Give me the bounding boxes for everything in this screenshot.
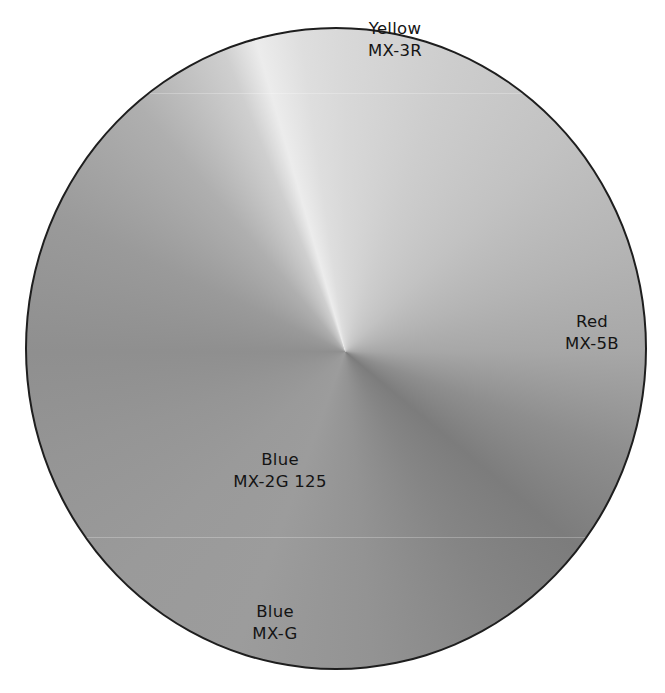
gradient-wheel <box>25 27 647 670</box>
segment-label-yellow-mx-3r: Yellow MX-3R <box>368 18 422 62</box>
segment-code: MX-5B <box>565 333 619 355</box>
segment-color-name: Red <box>565 311 619 333</box>
segment-color-name: Blue <box>252 601 297 623</box>
segment-code: MX-G <box>252 623 297 645</box>
segment-code: MX-3R <box>368 40 422 62</box>
segment-label-blue-mx-g: Blue MX-G <box>252 601 297 645</box>
color-wheel-diagram: Yellow MX-3R Red MX-5B Blue MX-2G 125 Bl… <box>0 0 665 693</box>
segment-color-name: Blue <box>233 449 326 471</box>
segment-label-blue-mx-2g-125: Blue MX-2G 125 <box>233 449 326 493</box>
segment-code: MX-2G 125 <box>233 471 326 493</box>
scan-seam <box>27 537 645 538</box>
segment-label-red-mx-5b: Red MX-5B <box>565 311 619 355</box>
segment-color-name: Yellow <box>368 18 422 40</box>
scan-seam <box>27 93 645 94</box>
